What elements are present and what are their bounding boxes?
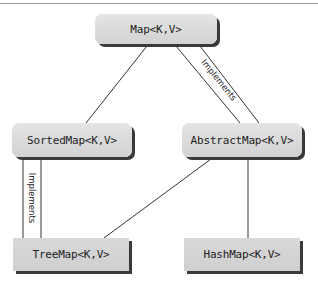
node-label: HashMap<K,V> [203, 248, 280, 261]
node-label: SortedMap<K,V> [27, 134, 117, 147]
edge-abstractmap-treemap [104, 159, 211, 238]
edge-map-sortedmap [86, 46, 147, 123]
node-label: TreeMap<K,V> [32, 248, 109, 261]
node-abstractmap: AbstractMap<K,V> [182, 123, 302, 157]
node-label: Map<K,V> [130, 23, 181, 36]
node-sortedmap: SortedMap<K,V> [12, 123, 132, 157]
node-hashmap: HashMap<K,V> [184, 238, 300, 271]
node-treemap: TreeMap<K,V> [13, 238, 129, 271]
node-map: Map<K,V> [95, 14, 217, 44]
implements-label-sortedmap-treemap: Implements [27, 173, 37, 223]
node-label: AbstractMap<K,V> [191, 134, 294, 147]
